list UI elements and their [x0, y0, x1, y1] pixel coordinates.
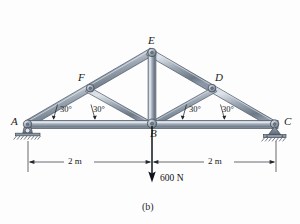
- joint-pin-D: [208, 84, 216, 92]
- joint-label-B: B: [150, 128, 157, 139]
- angle-label-A: 30°: [60, 105, 72, 114]
- member-B-C: [152, 120, 279, 128]
- member-E-B: [148, 52, 156, 126]
- truss-figure: A B C D E F 30° 30° 30° 30° 2 m 2 m 600 …: [0, 0, 300, 224]
- member-F-E: [89, 48, 155, 90]
- ground-hatch-A: [14, 136, 41, 140]
- joint-pin-E: [148, 48, 156, 56]
- joint-pin-F: [86, 84, 94, 92]
- ground-hatch-C: [262, 138, 286, 142]
- angle-label-FB: 30°: [93, 105, 105, 114]
- angle-label-C: 30°: [222, 105, 234, 114]
- joint-label-C: C: [284, 116, 291, 127]
- member-A-B: [26, 120, 153, 128]
- joint-label-D: D: [215, 72, 223, 83]
- joint-label-A: A: [11, 116, 18, 127]
- dimension-label-right: 2 m: [208, 157, 222, 166]
- dimension-label-left: 2 m: [68, 157, 82, 166]
- joint-label-F: F: [78, 72, 85, 83]
- load-label: 600 N: [160, 174, 184, 184]
- joint-label-E: E: [148, 35, 155, 46]
- figure-caption: (b): [142, 202, 154, 212]
- angle-label-DB: 30°: [189, 105, 201, 114]
